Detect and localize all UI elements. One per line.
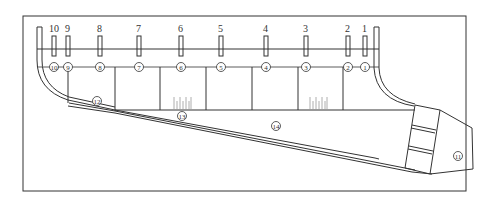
region-label: 11 [455, 153, 462, 161]
probes [52, 36, 367, 56]
left-curved-pipe [37, 27, 379, 159]
right-curved-pipe [374, 27, 414, 106]
station-label: 7 [137, 64, 141, 72]
region-label: 12 [94, 98, 102, 106]
probe-label: 2 [345, 23, 350, 34]
station-label: 8 [98, 64, 102, 72]
station-label: 1 [363, 64, 367, 72]
region-label: 13 [179, 113, 187, 121]
outer-frame [23, 16, 466, 191]
station-label: 5 [219, 64, 223, 72]
sloped-bottom-upper [69, 103, 415, 170]
probe-label: 10 [49, 23, 59, 34]
outlet-block [405, 105, 440, 174]
outlet-flare [430, 110, 473, 174]
sloped-bottom-lower [68, 106, 432, 174]
gauge-ticks-3 [310, 97, 327, 110]
engineering-diagram: 10 9 8 7 6 5 4 3 2 1 10 9 8 7 6 5 4 3 2 … [0, 0, 493, 215]
probe-label: 6 [178, 23, 183, 34]
station-label: 6 [179, 64, 183, 72]
region-label: 14 [273, 123, 281, 131]
probe-label: 9 [65, 23, 70, 34]
station-label: 3 [304, 64, 308, 72]
probe-label: 5 [218, 23, 223, 34]
probe-label: 3 [303, 23, 308, 34]
station-label: 4 [264, 64, 268, 72]
probe-label: 7 [136, 23, 141, 34]
probe-label: 8 [97, 23, 102, 34]
station-label: 9 [66, 64, 70, 72]
probe-label: 4 [263, 23, 268, 34]
probe-label: 1 [362, 23, 367, 34]
gauge-ticks-6 [174, 97, 191, 110]
station-label: 10 [51, 64, 59, 72]
station-label: 2 [346, 64, 350, 72]
